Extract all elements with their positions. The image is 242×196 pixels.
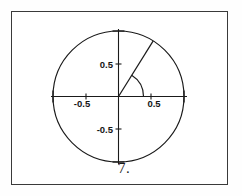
terminal-ray xyxy=(119,41,154,97)
y-label-minus-half: -0.5 xyxy=(97,124,114,135)
y-label-plus-half: 0.5 xyxy=(100,59,114,70)
x-label-plus-half: 0.5 xyxy=(147,98,161,109)
figure-caption-text: 7. xyxy=(112,160,130,177)
x-label-minus-half: -0.5 xyxy=(74,98,91,109)
figure-caption: 7. xyxy=(0,160,242,177)
figure-root: -0.5 0.5 0.5 -0.5 7. xyxy=(0,0,242,196)
angle-arc xyxy=(132,75,144,96)
